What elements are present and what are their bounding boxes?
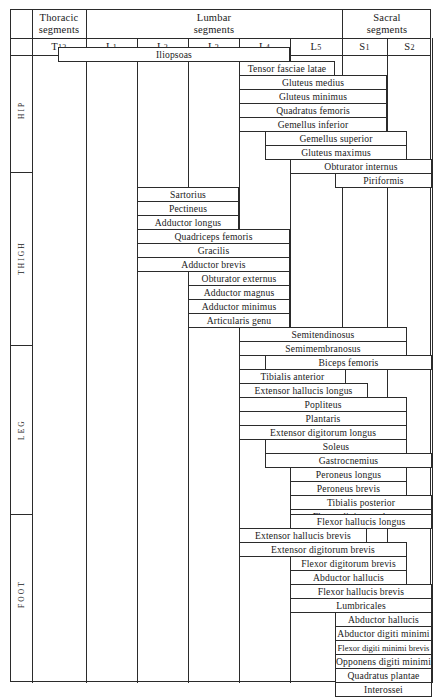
muscle-bar: Popliteus <box>239 397 407 412</box>
muscle-bar: Adductor minimus <box>188 299 290 314</box>
segment-base: L <box>310 41 317 52</box>
muscle-bar: Gluteus minimus <box>239 89 387 104</box>
muscle-bar: Abductor digiti minimi <box>335 626 432 641</box>
region-divider <box>11 514 32 515</box>
muscle-bar: Gracilis <box>137 243 290 258</box>
muscle-bar: Adductor brevis <box>137 257 290 272</box>
column-gridline <box>137 38 138 683</box>
segment-subscript: 2 <box>410 43 414 52</box>
muscle-bar: Gastrocnemius <box>265 453 432 468</box>
segment-header-s2: S2 <box>387 38 432 55</box>
muscle-bar: Gemellus superior <box>265 131 407 146</box>
muscle-bar: Gemellus inferior <box>239 117 387 132</box>
segment-group-header-line: segments <box>39 24 80 36</box>
column-gridline <box>239 38 240 683</box>
muscle-bar: Extensor digitorum brevis <box>239 542 407 557</box>
muscle-bar: Abductor hallucis <box>290 570 407 585</box>
segment-header-l5: L5 <box>290 38 342 55</box>
muscle-bar: Biceps femoris <box>265 355 432 370</box>
muscle-bar: Articularis genu <box>188 313 290 328</box>
muscle-bar: Plantaris <box>239 411 407 426</box>
muscle-bar: Adductor longus <box>137 215 239 230</box>
muscle-bar: Opponens digiti minimi <box>335 654 432 669</box>
segmental-innervation-chart: ThoracicsegmentsLumbarsegmentsSacralsegm… <box>10 9 431 682</box>
segment-subscript: 1 <box>365 43 369 52</box>
region-divider <box>11 172 32 173</box>
muscle-bar: Sartorius <box>137 187 239 202</box>
muscle-bar: Pectineus <box>137 201 239 216</box>
column-gridline <box>432 38 433 683</box>
muscle-bar: Semimembranosus <box>239 341 407 356</box>
muscle-bar: Quadriceps femoris <box>137 229 290 244</box>
segment-group-header-line: Sacral <box>373 12 400 24</box>
group-gridline <box>32 10 33 683</box>
segment-group-header-line: Thoracic <box>40 12 79 24</box>
muscle-bar: Soleus <box>265 439 407 454</box>
segment-group-header-line: segments <box>367 24 408 36</box>
muscle-bar: Abductor hallucis <box>335 612 432 627</box>
column-gridline <box>188 38 189 683</box>
group-gridline <box>86 10 87 683</box>
segment-group-header: Thoracicsegments <box>32 10 86 38</box>
muscle-bar: Piriformis <box>335 173 432 188</box>
muscle-bar: Adductor magnus <box>188 285 290 300</box>
segment-header-s1: S1 <box>342 38 387 55</box>
muscle-bar: Flexor hallucis brevis <box>290 584 432 599</box>
segment-subscript: 5 <box>317 43 321 52</box>
segment-group-header: Sacralsegments <box>342 10 432 38</box>
muscle-bar: Peroneus brevis <box>290 481 407 496</box>
muscle-bar: Iliopsoas <box>58 47 290 62</box>
muscle-bar: Tensor fasciae latae <box>239 61 335 76</box>
region-label-leg: LEG <box>11 345 32 514</box>
muscle-bar: Extensor hallucis longus <box>239 383 368 398</box>
muscle-bar: Extensor digitorum longus <box>239 425 407 440</box>
muscle-bar: Tibialis anterior <box>239 369 346 384</box>
muscle-bar: Obturator internus <box>290 159 432 174</box>
muscle-bar: Quadratus plantae <box>335 668 432 683</box>
muscle-bar: Gluteus medius <box>239 75 387 90</box>
segment-group-header: Lumbarsegments <box>86 10 342 38</box>
muscle-bar: Obturator externus <box>188 271 290 286</box>
muscle-bar: Gluteus maximus <box>265 145 407 160</box>
segment-group-header-line: segments <box>194 24 235 36</box>
muscle-bar: Interossei <box>335 682 432 697</box>
muscle-bar: Semitendinosus <box>239 327 407 342</box>
muscle-bar: Extensor hallucis brevis <box>239 528 367 543</box>
region-label-foot: FOOT <box>11 514 32 674</box>
region-label-thigh: THIGH <box>11 172 32 345</box>
muscle-bar: Lumbricales <box>290 598 432 613</box>
muscle-bar: Flexor hallucis longus <box>290 514 432 529</box>
region-label-hip: HIP <box>11 47 32 172</box>
muscle-bar: Flexor digiti minimi brevis <box>335 640 432 655</box>
muscle-bar: Tibialis posterior <box>290 495 432 510</box>
muscle-bar: Flexor digitorum brevis <box>290 556 407 571</box>
muscle-bar: Peroneus longus <box>290 467 407 482</box>
segment-group-header-line: Lumbar <box>197 12 231 24</box>
muscle-bar: Quadratus femoris <box>239 103 387 118</box>
region-divider <box>11 345 32 346</box>
